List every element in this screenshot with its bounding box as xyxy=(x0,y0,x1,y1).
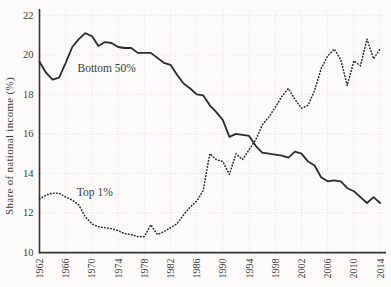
x-tick-label: 1974 xyxy=(113,259,124,279)
x-tick-label: 1978 xyxy=(139,259,150,279)
y-tick-label: 16 xyxy=(23,128,34,139)
x-tick-label: 1998 xyxy=(270,259,281,279)
y-tick-label: 18 xyxy=(23,89,34,100)
x-tick-label: 2014 xyxy=(375,259,386,279)
y-tick-label: 12 xyxy=(23,207,34,218)
x-tick-label: 1986 xyxy=(191,259,202,279)
bottom50-line xyxy=(40,33,381,203)
x-tick-label: 2006 xyxy=(322,259,333,279)
y-tick-label: 20 xyxy=(23,49,34,60)
series-label: Bottom 50% xyxy=(77,62,136,74)
x-tick-label: 1962 xyxy=(34,259,45,279)
x-tick-label: 1966 xyxy=(60,259,71,279)
y-tick-label: 14 xyxy=(23,168,34,179)
x-tick-label: 2010 xyxy=(348,259,359,279)
income-share-chart: Share of national income (%) 10121416182… xyxy=(0,0,391,287)
y-tick-label: 10 xyxy=(23,247,34,258)
y-tick-label: 22 xyxy=(23,10,34,21)
series-label: Top 1% xyxy=(77,186,113,199)
chart-canvas: 1012141618202219621966197019741978198219… xyxy=(0,0,391,287)
x-tick-label: 1994 xyxy=(244,259,255,279)
x-tick-label: 1970 xyxy=(86,259,97,279)
x-tick-label: 2002 xyxy=(296,259,307,279)
x-tick-label: 1982 xyxy=(165,259,176,279)
x-tick-label: 1990 xyxy=(217,259,228,279)
